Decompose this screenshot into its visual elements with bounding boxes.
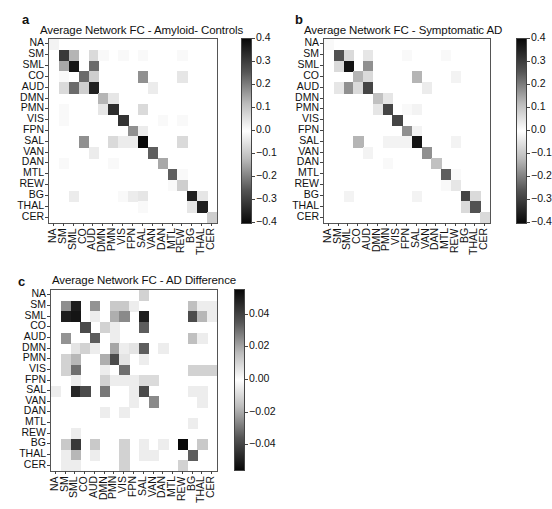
y-tick [45, 184, 48, 185]
heatmap-cell [119, 365, 129, 376]
heatmap-cell [197, 365, 207, 376]
heatmap-cell [89, 50, 99, 61]
heatmap-cell [69, 50, 79, 61]
heatmap-cell [422, 147, 432, 158]
y-tick [45, 141, 48, 142]
y-tick [45, 130, 48, 131]
heatmap-cell [441, 180, 451, 191]
heatmap-cell [139, 386, 149, 397]
y-tick [320, 195, 323, 196]
heatmap-cell [98, 50, 108, 61]
colorbar-tick [526, 38, 530, 39]
heatmap-cell [158, 158, 168, 169]
heatmap-cell [71, 354, 81, 365]
colorbar-tick-label: −0.02 [249, 406, 276, 417]
y-tick [320, 130, 323, 131]
heatmap-cell [363, 61, 373, 72]
colorbar-tick [251, 222, 255, 223]
y-tick [47, 401, 50, 402]
heatmap-cell [138, 126, 148, 137]
heatmap-cell [207, 301, 217, 312]
x-tick [104, 471, 105, 474]
panel-letter-b: b [295, 12, 303, 27]
colorbar-tick-label: 0.2 [256, 78, 271, 89]
x-tick [192, 471, 193, 474]
y-tick [45, 108, 48, 109]
y-tick [47, 326, 50, 327]
heatmap-cell [129, 375, 139, 386]
x-tick [396, 223, 397, 226]
heatmap-cell [71, 343, 81, 354]
x-tick [465, 223, 466, 226]
y-tick [320, 206, 323, 207]
y-axis-label: SML [22, 59, 44, 70]
y-tick [320, 141, 323, 142]
y-tick [47, 443, 50, 444]
heatmap-cell [138, 191, 148, 202]
y-axis-label: VIS [29, 363, 46, 374]
x-tick [92, 223, 93, 226]
x-tick [142, 223, 143, 226]
heatmap-cell [168, 169, 178, 180]
heatmap-cell [451, 169, 461, 180]
heatmap-cell [59, 71, 69, 82]
x-axis-label: CER [205, 476, 216, 498]
heatmap-cell [119, 343, 129, 354]
y-tick [45, 173, 48, 174]
x-tick [211, 223, 212, 226]
heatmap-cell [451, 136, 461, 147]
heatmap-cell [188, 333, 198, 344]
heatmap-cell [461, 201, 471, 212]
x-axis-label: CER [478, 228, 489, 250]
colorbar-tick [244, 314, 248, 315]
y-tick [47, 433, 50, 434]
heatmap-cell [110, 343, 120, 354]
x-tick [113, 471, 114, 474]
heatmap-cell [363, 147, 373, 158]
y-tick [47, 358, 50, 359]
heatmap-cell [110, 322, 120, 333]
heatmap-cell [138, 201, 148, 212]
x-tick [172, 223, 173, 226]
y-axis-label: AUD [297, 81, 319, 92]
colorbar-tick [251, 130, 255, 131]
heatmap-cell [178, 439, 188, 450]
heatmap-cell [177, 50, 187, 61]
heatmap-cell [61, 354, 71, 365]
heatmap-cell [412, 191, 422, 202]
heatmap-cell [59, 50, 69, 61]
heatmap-cell [138, 104, 148, 115]
y-axis-label: SAL [24, 135, 44, 146]
heatmap-cell [177, 169, 187, 180]
colorbar-tick-label: 0.0 [531, 124, 546, 135]
colorbar-tick [251, 84, 255, 85]
heatmap-cell [89, 61, 99, 72]
colorbar [516, 38, 527, 224]
y-tick [45, 119, 48, 120]
colorbar-tick-label: 0.4 [256, 32, 271, 43]
panel-c-title: Average Network FC - AD Difference [52, 274, 236, 286]
y-tick [45, 206, 48, 207]
heatmap-cell [188, 301, 198, 312]
heatmap-cell [188, 450, 198, 461]
x-tick [153, 471, 154, 474]
y-tick [320, 76, 323, 77]
heatmap-cell [100, 354, 110, 365]
y-axis-label: AUD [24, 331, 46, 342]
colorbar-tick [526, 199, 530, 200]
colorbar-tick-label: −0.04 [249, 438, 276, 449]
y-axis-label: SM [30, 299, 46, 310]
y-axis-label: MTL [25, 416, 46, 427]
heatmap-cell [90, 311, 100, 322]
y-tick [45, 43, 48, 44]
heatmap-cell [158, 115, 168, 126]
heatmap-cell [90, 333, 100, 344]
y-axis-label: CO [303, 70, 319, 81]
heatmap-cell [139, 311, 149, 322]
heatmap-cell [110, 333, 120, 344]
x-tick [172, 471, 173, 474]
heatmap-cell [59, 82, 69, 93]
heatmap-cell [80, 386, 90, 397]
heatmap-cell [80, 343, 90, 354]
y-tick [47, 380, 50, 381]
